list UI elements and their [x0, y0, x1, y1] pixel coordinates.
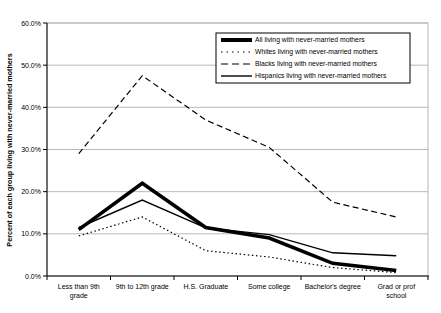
legend-label-hispanics: Hispanics living with never-married moth… [255, 72, 387, 80]
y-axis-title: Percent of each group living with never-… [5, 20, 17, 280]
y-tick-label: 30.0% [21, 146, 41, 153]
series-line-all [79, 183, 397, 270]
x-tick-label: Bachelor's degree [305, 283, 361, 291]
x-tick-label: 9th to 12th grade [116, 283, 169, 291]
legend-label-blacks: Blacks living with never-married mothers [255, 60, 378, 68]
x-tick-label: H.S. Graduate [183, 283, 228, 290]
x-tick-label: Less than 9thgrade [58, 283, 100, 300]
series-line-hispanics [79, 200, 397, 256]
y-tick-label: 10.0% [21, 230, 41, 237]
chart-svg: 0.0%10.0%20.0%30.0%40.0%50.0%60.0%Less t… [0, 0, 441, 313]
y-tick-label: 0.0% [25, 273, 41, 280]
chart-container: 0.0%10.0%20.0%30.0%40.0%50.0%60.0%Less t… [0, 0, 441, 313]
y-tick-label: 50.0% [21, 62, 41, 69]
y-tick-label: 60.0% [21, 20, 41, 27]
y-tick-label: 20.0% [21, 188, 41, 195]
legend-label-all: All living with never-married mothers [255, 36, 365, 44]
legend-label-whites: Whites living with never-married mothers [255, 48, 378, 56]
y-tick-label: 40.0% [21, 104, 41, 111]
x-tick-label: Some college [248, 283, 291, 291]
x-tick-label: Grad or profschool [377, 283, 415, 299]
